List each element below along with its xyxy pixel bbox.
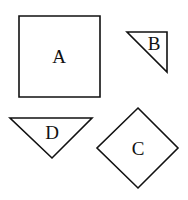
shape-a: A bbox=[19, 16, 100, 97]
shape-b: B bbox=[127, 32, 167, 72]
shapes-diagram: A B D C bbox=[0, 0, 188, 200]
label-d: D bbox=[45, 122, 59, 143]
shape-d: D bbox=[10, 118, 92, 158]
shape-c: C bbox=[97, 108, 178, 188]
label-a: A bbox=[52, 46, 66, 67]
label-c: C bbox=[132, 138, 145, 159]
label-b: B bbox=[148, 33, 161, 54]
